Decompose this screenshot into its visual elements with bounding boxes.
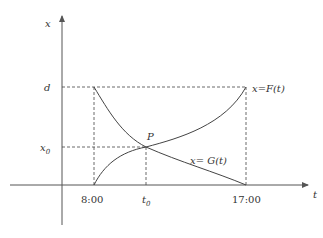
- x-axis-label: t: [313, 189, 318, 200]
- tick-label-8-00: 8:00: [81, 194, 103, 205]
- curve-F-label: x=F(t): [252, 83, 285, 94]
- tick-label-t0-sub: 0: [146, 200, 151, 208]
- intersection-label-P: P: [146, 131, 154, 142]
- tick-label-x0: x0: [40, 142, 51, 156]
- curve-F: [94, 87, 246, 185]
- tick-label-17-00: 17:00: [232, 194, 261, 205]
- tick-label-d: d: [44, 82, 50, 93]
- diagram-canvas: x t d x0 8:00 t0 17:00 x=F(t) x= G(t) P: [0, 0, 323, 238]
- curve-G: [94, 87, 246, 185]
- curve-G-label: x= G(t): [190, 155, 227, 166]
- tick-label-t0: t0: [142, 194, 151, 208]
- tick-label-x0-sub: 0: [46, 148, 51, 156]
- y-axis-label: x: [45, 18, 51, 29]
